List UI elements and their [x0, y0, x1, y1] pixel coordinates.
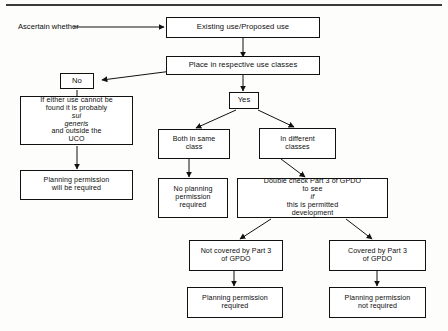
- lead-label: Ascertain whether: [18, 22, 79, 31]
- node-planning-permission-not-required[interactable]: Planning permission not required: [329, 287, 426, 318]
- node-sui-generis-text-post: and outside the UCO: [40, 128, 113, 144]
- node-place-in-use-classes-label: Place in respective use classes: [189, 61, 298, 70]
- node-no-planning-permission-required-label: No planning permission required: [174, 186, 213, 210]
- node-yes[interactable]: Yes: [229, 92, 259, 109]
- node-not-covered-by-part-3-label: Not covered by Part 3 of GPDO: [201, 248, 272, 264]
- node-existing-use-label: Existing use/Proposed use: [197, 23, 289, 32]
- node-double-check-gpdo[interactable]: Double check Part 3 of GPDO to see if th…: [237, 178, 388, 218]
- node-covered-by-part-3[interactable]: Covered by Part 3 of GPDO: [329, 240, 426, 271]
- arrow-yes-to-different: [258, 110, 294, 127]
- node-sui-generis[interactable]: If either use cannot be found it is prob…: [20, 96, 133, 145]
- node-in-different-classes[interactable]: In different classes: [259, 128, 336, 159]
- node-planning-permission-will-be-required-label: Planning permission will be required: [44, 177, 110, 193]
- arrow-different-to-double-check: [281, 159, 305, 177]
- arrow-double-check-to-not-covered: [240, 219, 271, 239]
- node-sui-generis-text-pre: If either use cannot be found it is prob…: [40, 97, 113, 113]
- node-sui-generis-label: If either use cannot be found it is prob…: [40, 97, 113, 145]
- node-place-in-use-classes[interactable]: Place in respective use classes: [166, 56, 320, 75]
- node-planning-permission-not-required-label: Planning permission not required: [345, 295, 411, 311]
- node-yes-label: Yes: [238, 96, 251, 105]
- node-not-covered-by-part-3[interactable]: Not covered by Part 3 of GPDO: [189, 240, 283, 271]
- arrow-double-check-to-covered: [346, 219, 372, 239]
- node-covered-by-part-3-label: Covered by Part 3 of GPDO: [348, 248, 407, 264]
- node-double-check-gpdo-label: Double check Part 3 of GPDO to see if th…: [264, 178, 361, 218]
- node-no-planning-permission-required[interactable]: No planning permission required: [158, 178, 228, 218]
- node-planning-permission-required[interactable]: Planning permission required: [187, 287, 283, 318]
- node-both-in-same-class-label: Both in same class: [173, 136, 216, 152]
- node-double-check-text-pre: Double check Part 3 of GPDO to see: [264, 178, 361, 194]
- node-in-different-classes-label: In different classes: [280, 136, 315, 152]
- node-no[interactable]: No: [60, 73, 94, 89]
- node-double-check-text-post: this is permitted development: [264, 202, 361, 218]
- node-sui-generis-text-italic: sui generis: [40, 113, 113, 129]
- node-existing-use[interactable]: Existing use/Proposed use: [166, 17, 320, 38]
- node-no-label: No: [72, 77, 82, 86]
- node-planning-permission-will-be-required[interactable]: Planning permission will be required: [20, 170, 133, 200]
- arrow-yes-to-both-same: [196, 110, 236, 128]
- connector-layer: [0, 0, 448, 331]
- flowchart-canvas: Ascertain whether Existing use/Proposed …: [0, 0, 448, 331]
- node-planning-permission-required-label: Planning permission required: [202, 295, 268, 311]
- node-both-in-same-class[interactable]: Both in same class: [158, 129, 230, 159]
